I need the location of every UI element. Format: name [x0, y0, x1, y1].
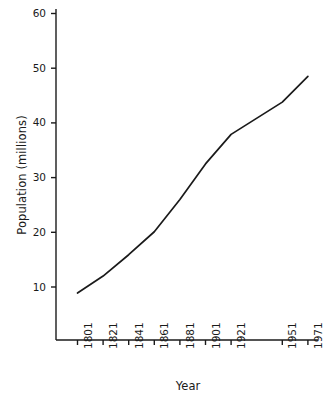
x-tick-marks — [78, 340, 308, 345]
plot-area — [0, 0, 331, 402]
axes — [56, 9, 318, 340]
population-line-chart: Population (millions) Year 102030405060 … — [0, 0, 331, 402]
population-series-line — [78, 76, 308, 293]
y-tick-marks — [51, 14, 56, 288]
